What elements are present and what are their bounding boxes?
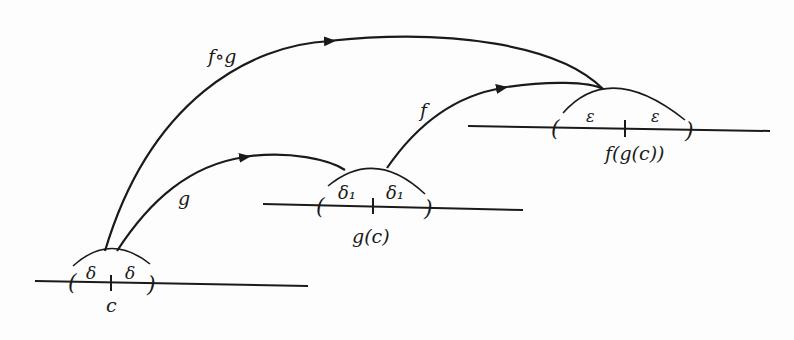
- delta1-left-label: δ₁: [338, 182, 356, 203]
- open-paren: (: [68, 270, 77, 295]
- number-line-fgc: ( ) ε ε f(g(c)): [468, 88, 770, 164]
- neighborhood-arc: [563, 88, 685, 120]
- close-paren: ): [684, 118, 694, 143]
- epsilon-left-label: ε: [586, 107, 595, 126]
- axis-line: [468, 126, 770, 131]
- arrow-f: f: [387, 83, 603, 168]
- open-paren: (: [551, 116, 560, 141]
- axis-line: [263, 204, 523, 210]
- point-label-c: c: [106, 294, 117, 316]
- arrow-path-tail: [243, 155, 345, 170]
- continuity-composition-diagram: ( ) δ δ c ( ) δ₁ δ₁ g(c) ( ) ε ε f(g(c))…: [0, 0, 794, 340]
- arrow-g: g: [117, 155, 345, 251]
- delta-right-label: δ: [125, 263, 135, 283]
- delta1-right-label: δ₁: [386, 182, 404, 203]
- arrow-label-fog: f∘g: [206, 45, 237, 67]
- arrow-path: [387, 88, 502, 168]
- arrow-path-tail: [328, 37, 603, 89]
- open-paren: (: [316, 194, 325, 219]
- close-paren: ): [146, 272, 156, 297]
- epsilon-right-label: ε: [651, 107, 660, 126]
- diagram-svg: ( ) δ δ c ( ) δ₁ δ₁ g(c) ( ) ε ε f(g(c))…: [0, 0, 794, 340]
- point-label-gc: g(c): [352, 225, 390, 247]
- arrow-label-f: f: [418, 99, 430, 121]
- arrow-path-tail: [500, 83, 603, 89]
- number-line-c: ( ) δ δ c: [35, 248, 308, 316]
- close-paren: ): [423, 196, 433, 221]
- delta-left-label: δ: [86, 263, 96, 283]
- arrow-label-g: g: [178, 187, 190, 209]
- neighborhood-arc: [73, 248, 150, 266]
- arrow-composite: f∘g: [105, 37, 603, 251]
- number-line-gc: ( ) δ₁ δ₁ g(c): [263, 168, 523, 247]
- point-label-fgc: f(g(c)): [603, 142, 665, 164]
